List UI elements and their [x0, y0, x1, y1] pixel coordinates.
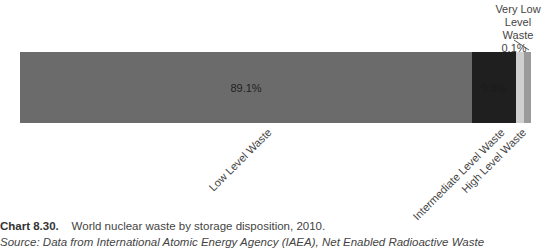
segment-low-level-waste: 89.1% [20, 52, 472, 123]
callout-leader-line [0, 0, 551, 60]
chart-source: Source: Data from International Atomic E… [0, 236, 484, 248]
category-label-intermediate-level-waste: Intermediate Level Waste [410, 126, 506, 222]
chart-caption: Chart 8.30. World nuclear waste by stora… [0, 220, 325, 232]
segment-intermediate-level-waste: 9.8% [472, 52, 516, 123]
chart-number: Chart 8.30. [0, 220, 59, 232]
segment-very-low-level-waste [524, 52, 531, 123]
segment-high-level-waste: 1 [516, 52, 524, 123]
stacked-bar: 89.1% 9.8% 1 [20, 52, 531, 123]
segment-value-label: 89.1% [230, 82, 261, 94]
segment-value-label: 9.8% [481, 82, 506, 94]
chart-title: World nuclear waste by storage dispositi… [72, 220, 326, 232]
category-label-low-level-waste: Low Level Waste [206, 126, 273, 193]
